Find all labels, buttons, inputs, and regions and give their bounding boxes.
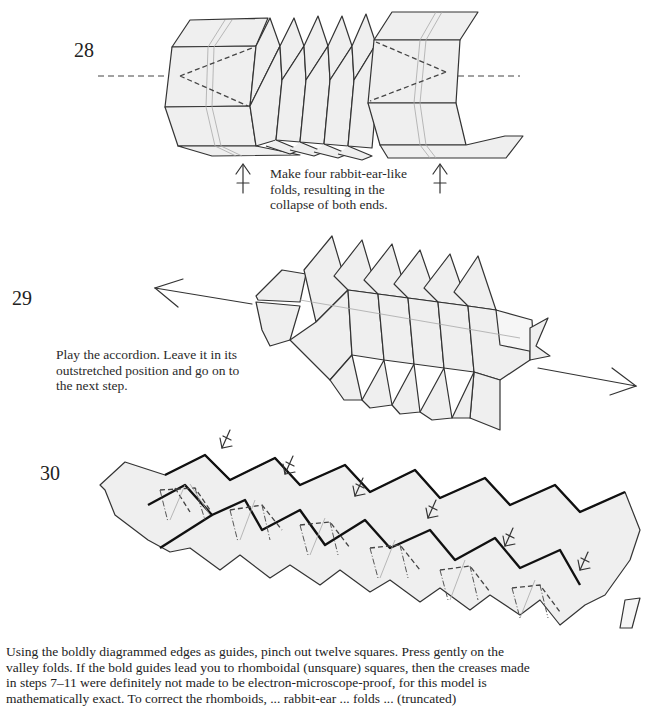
caption-line: in steps 7–11 were definitely not made t… — [6, 675, 646, 691]
step-30-caption: Using the boldly diagrammed edges as gui… — [6, 644, 646, 706]
pinch-arrow-icon — [220, 430, 232, 448]
caption-line-truncated: mathematically exact. To correct the rho… — [6, 691, 646, 706]
caption-line: valley folds. If the bold guides lead yo… — [6, 660, 646, 676]
pinch-arrow-icon — [283, 456, 295, 474]
caption-line: Using the boldly diagrammed edges as gui… — [6, 644, 646, 660]
